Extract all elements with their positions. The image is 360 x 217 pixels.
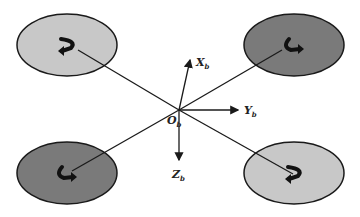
arm-front-right	[179, 50, 282, 110]
arm-rear-left	[72, 110, 179, 171]
rotor-disk	[244, 14, 344, 76]
labels-group: XbYbZbOb	[167, 56, 257, 183]
rotor-disk	[17, 14, 117, 76]
rotor-front-left	[17, 14, 117, 76]
axes-group	[179, 60, 238, 160]
rotor-disk	[17, 142, 117, 204]
rotor-rear-left	[17, 142, 117, 204]
z-axis-label: Zb	[171, 168, 185, 183]
rotor-rear-right	[244, 142, 344, 204]
rotor-front-right	[244, 14, 344, 76]
y-axis-label: Yb	[244, 104, 257, 119]
rotor-disk	[244, 142, 344, 204]
arm-front-left	[78, 50, 179, 110]
arm-rear-right	[179, 110, 293, 174]
x-axis-label: Xb	[195, 56, 210, 71]
x-axis-arrow	[179, 60, 190, 110]
quadrotor-diagram: XbYbZbOb	[0, 0, 360, 217]
